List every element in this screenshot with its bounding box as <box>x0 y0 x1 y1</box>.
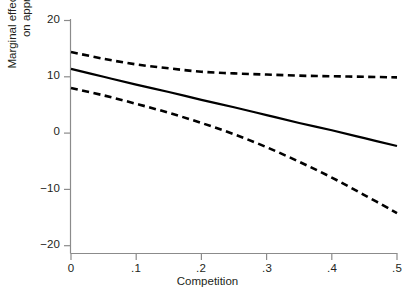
y-axis-title: Marginal effect of grants on approval <box>6 0 36 92</box>
x-tick-label-0: 0 <box>51 262 91 274</box>
y-tick-marks <box>64 21 71 246</box>
x-axis-title: Competition <box>0 275 415 287</box>
x-tick-label-03: .3 <box>247 262 287 274</box>
y-tick-label-0: 0 <box>18 125 60 137</box>
plot-area <box>0 0 415 299</box>
series-upper-confidence-bound <box>71 52 397 77</box>
x-tick-label-01: .1 <box>116 262 156 274</box>
y-axis-title-line2: on approval <box>20 0 34 92</box>
y-tick-label-neg20: −20 <box>18 238 60 250</box>
chart-figure: 20 10 0 −10 −20 0 .1 .2 .3 .4 .5 Competi… <box>0 0 415 299</box>
x-tick-label-04: .4 <box>312 262 352 274</box>
x-tick-marks <box>71 254 397 261</box>
y-axis-title-line1: Marginal effect of grants <box>6 0 20 92</box>
x-tick-label-02: .2 <box>181 262 221 274</box>
y-tick-label-neg10: −10 <box>18 182 60 194</box>
series-marginal-effect <box>71 69 397 146</box>
x-tick-label-05: .5 <box>377 262 415 274</box>
